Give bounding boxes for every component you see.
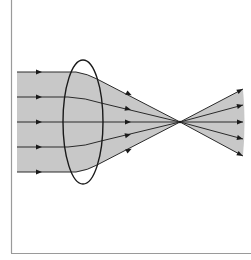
lens-diagram [0, 0, 251, 260]
ray-diagram-canvas [0, 0, 251, 260]
focal-point [179, 121, 182, 124]
